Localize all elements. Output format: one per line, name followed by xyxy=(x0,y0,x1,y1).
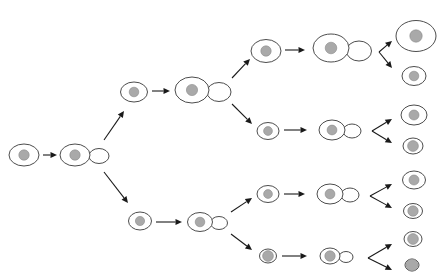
cell xyxy=(251,40,281,63)
cell-bud xyxy=(341,188,359,202)
lineage-arrow xyxy=(372,119,392,131)
lineage-arrow xyxy=(284,127,307,133)
cell xyxy=(403,138,423,154)
budding-cell xyxy=(317,184,359,204)
budding-cell xyxy=(60,144,109,166)
budding-cell xyxy=(320,248,353,264)
cell-nucleus xyxy=(409,71,419,81)
cell xyxy=(260,249,277,263)
lineage-arrow xyxy=(43,152,57,158)
cell xyxy=(121,82,148,102)
lineage-arrow xyxy=(232,104,252,124)
cell-nucleus xyxy=(409,175,419,185)
cell-nucleus xyxy=(264,190,273,199)
lineage-arrow xyxy=(104,172,128,203)
cell-nucleus xyxy=(327,125,337,135)
budding-cell xyxy=(313,34,372,62)
cells-layer xyxy=(9,21,436,272)
lineage-arrow xyxy=(379,52,392,68)
cell xyxy=(129,212,152,230)
lineage-arrow xyxy=(231,234,252,250)
cell-nucleus xyxy=(409,110,419,120)
cell xyxy=(396,21,436,52)
lineage-arrow xyxy=(284,191,305,197)
cell-nucleus xyxy=(410,30,422,42)
lineage-arrow xyxy=(379,41,392,52)
cell-nucleus xyxy=(261,46,271,56)
cell xyxy=(404,232,422,247)
lineage-arrow xyxy=(231,198,252,212)
cell-nucleus xyxy=(325,189,335,199)
cell-nucleus xyxy=(195,217,205,227)
cell-nucleus xyxy=(135,216,144,225)
cell-bud xyxy=(347,41,372,61)
cell-nucleus xyxy=(325,42,337,54)
cell-nucleus xyxy=(408,234,419,245)
lineage-arrow xyxy=(372,131,392,143)
budding-cell xyxy=(175,77,231,103)
cell-bud xyxy=(339,252,353,263)
cell-bud xyxy=(89,149,109,164)
lineage-arrow xyxy=(370,196,392,208)
budding-cell xyxy=(319,120,361,140)
cell-nucleus xyxy=(19,150,29,160)
cell-nucleus xyxy=(264,127,273,136)
cell-nucleus xyxy=(263,251,274,262)
lineage-arrow xyxy=(370,184,392,196)
lineage-arrow xyxy=(285,47,305,53)
lineage-arrow xyxy=(368,258,392,270)
lineage-arrow xyxy=(282,253,307,259)
cell-bud xyxy=(211,217,228,230)
lineage-arrow xyxy=(104,111,124,140)
cell-nucleus xyxy=(186,84,197,95)
lineage-arrow xyxy=(152,88,170,94)
cell-nucleus xyxy=(129,87,139,97)
lineage-arrow xyxy=(232,59,250,78)
cell-nucleus xyxy=(325,251,335,261)
lineage-arrow xyxy=(156,219,182,225)
cell xyxy=(404,204,423,219)
cell-lineage-diagram xyxy=(0,0,441,280)
cell-bud xyxy=(207,83,231,102)
cell-nucleus xyxy=(408,206,418,216)
cell-nucleus xyxy=(408,141,419,152)
cell-nucleus xyxy=(70,150,80,160)
cell xyxy=(403,171,426,189)
budding-cell xyxy=(188,213,228,232)
cell xyxy=(402,67,426,86)
cell-bud xyxy=(343,124,361,138)
cell xyxy=(405,259,419,271)
cell xyxy=(401,105,427,125)
cell-nucleus xyxy=(406,259,418,271)
cell xyxy=(9,144,39,166)
diagram-canvas xyxy=(0,0,441,280)
cell xyxy=(257,186,279,203)
cell xyxy=(257,123,279,140)
lineage-arrow xyxy=(368,244,392,258)
